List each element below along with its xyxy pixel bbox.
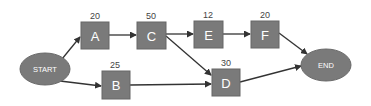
end-label: END (318, 61, 334, 70)
label-f: F (261, 28, 269, 43)
duration-a: 20 (90, 11, 100, 21)
label-a: A (91, 29, 100, 44)
duration-e: 12 (203, 10, 213, 20)
end-node: END (301, 49, 351, 81)
edge-f-end (279, 33, 307, 54)
activity-f: 20 F (251, 10, 279, 48)
label-e: E (204, 28, 213, 43)
duration-d: 30 (221, 58, 231, 68)
start-node: START (20, 53, 70, 85)
activity-e: 12 E (194, 10, 223, 48)
edge-b-d (130, 84, 211, 85)
start-label: START (33, 65, 57, 74)
duration-f: 20 (260, 10, 270, 20)
edge-start-a (62, 37, 80, 59)
label-c: C (147, 29, 156, 44)
label-d: D (221, 76, 230, 91)
edge-d-end (240, 66, 301, 82)
activity-a: 20 A (81, 11, 109, 49)
network-diagram: START END 20 A 50 C 12 E 20 F 25 B 30 D (0, 0, 371, 106)
duration-c: 50 (146, 11, 156, 21)
label-b: B (112, 78, 121, 93)
activity-c: 50 C (137, 11, 166, 49)
edge-start-b (60, 81, 101, 86)
duration-b: 25 (110, 60, 120, 70)
activity-d: 30 D (212, 58, 240, 96)
activity-b: 25 B (102, 60, 130, 99)
